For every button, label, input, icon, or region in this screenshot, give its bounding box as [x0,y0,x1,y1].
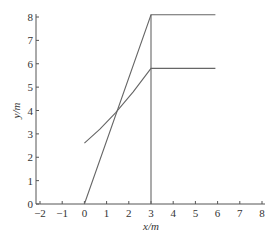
x-tick-label: 5 [193,207,199,219]
y-tick-label: 2 [28,151,34,163]
x-tick-label: 4 [170,207,176,219]
x-tick-label: 1 [104,207,110,219]
x-tick-label: −1 [56,207,68,219]
x-tick-label: 2 [126,207,132,219]
y-tick-label: 8 [28,11,34,23]
series-curve-2 [84,68,215,143]
x-axis-label: x/m [142,220,159,232]
y-tick-label: 6 [28,58,34,70]
chart-container: −2−1012345678012345678x/my/m [0,0,279,236]
y-tick-label: 3 [28,128,34,140]
x-tick-label: 6 [215,207,221,219]
y-tick-label: 7 [28,34,34,46]
y-tick-label: 1 [28,175,34,187]
x-tick-label: 8 [259,207,265,219]
y-tick-label: 4 [28,105,34,117]
line-chart: −2−1012345678012345678x/my/m [0,0,279,236]
x-tick-label: 3 [148,207,154,219]
y-tick-label: 5 [28,81,34,93]
x-tick-label: −2 [34,207,46,219]
x-tick-label: 7 [237,207,243,219]
x-tick-label: 0 [82,207,88,219]
series-line-1 [84,15,215,204]
y-axis-label: y/m [10,103,22,120]
y-tick-label: 0 [28,198,34,210]
